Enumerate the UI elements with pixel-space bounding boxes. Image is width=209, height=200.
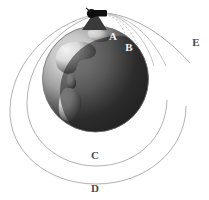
label-e: E (192, 36, 199, 48)
label-c: C (91, 149, 99, 161)
label-d: D (91, 182, 99, 194)
globe-continents (56, 30, 176, 148)
earth-globe (43, 26, 177, 148)
diagram-canvas: A B C D E (0, 0, 209, 200)
newtons-cannonball-figure: A B C D E (0, 0, 209, 200)
cannon-assembly (82, 8, 107, 30)
label-b: B (125, 41, 133, 53)
label-a: A (109, 30, 117, 42)
